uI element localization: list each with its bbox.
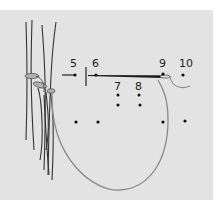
thread-tail <box>170 77 190 88</box>
stitch-diagram: 5 6 7 8 9 10 <box>0 0 222 210</box>
label-6: 6 <box>92 57 99 70</box>
label-7: 7 <box>114 80 121 93</box>
label-9: 9 <box>159 57 166 70</box>
label-10: 10 <box>179 57 193 70</box>
label-5: 5 <box>70 57 77 70</box>
thread-loop <box>52 80 168 190</box>
label-8: 8 <box>135 80 142 93</box>
needle-icon <box>88 75 172 78</box>
stitch-points <box>73 72 186 123</box>
